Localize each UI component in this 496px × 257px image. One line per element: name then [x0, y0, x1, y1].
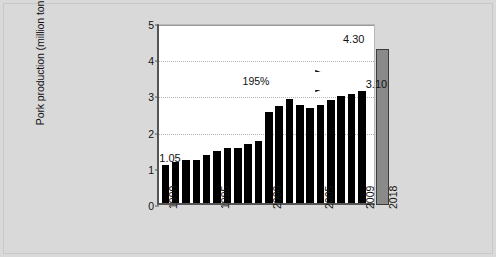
- growth-percent-label: 195%: [170, 72, 342, 90]
- x-tick-label-1990: 1990: [167, 186, 179, 209]
- bar-series: [159, 25, 374, 203]
- value-label-1990: 1.05: [159, 152, 180, 164]
- bar-2004: [306, 108, 314, 203]
- y-tick-label-1: 1: [148, 164, 154, 176]
- y-tick-label-5: 5: [148, 19, 154, 31]
- chart-figure: Pork production (million tonnes) 5 4 3 2…: [0, 0, 496, 257]
- x-tick-label-2009: 2009: [364, 186, 376, 209]
- y-tick-label-2: 2: [148, 128, 154, 140]
- bar-1992: [182, 160, 190, 203]
- bar-2003: [296, 105, 304, 203]
- y-axis-title: Pork production (million tonnes): [34, 0, 46, 148]
- y-tick-label-0: 0: [148, 200, 154, 212]
- growth-percent-text: 195%: [239, 75, 274, 87]
- bar-2007: [337, 96, 345, 203]
- bar-1993: [193, 160, 201, 203]
- value-label-2018: 4.30: [343, 33, 364, 45]
- bar-2008: [348, 94, 356, 203]
- y-tick-label-4: 4: [148, 55, 154, 67]
- value-label-2009: 3.10: [366, 78, 387, 90]
- bar-2002: [286, 99, 294, 203]
- x-tick-label-1995: 1995: [219, 186, 231, 209]
- bar-1994: [203, 155, 211, 203]
- x-tick-label-2018: 2018: [387, 186, 399, 209]
- bar-2018-projection: [376, 49, 389, 205]
- bar-1998: [244, 144, 252, 203]
- bar-1997: [234, 148, 242, 203]
- y-tick-label-3: 3: [148, 91, 154, 103]
- x-tick-label-2000: 2000: [271, 186, 283, 209]
- y-tickmark-0: [155, 206, 159, 207]
- bar-1999: [255, 141, 263, 203]
- x-tick-label-2005: 2005: [323, 186, 335, 209]
- plot-area: 5 4 3 2 1 0: [157, 24, 375, 205]
